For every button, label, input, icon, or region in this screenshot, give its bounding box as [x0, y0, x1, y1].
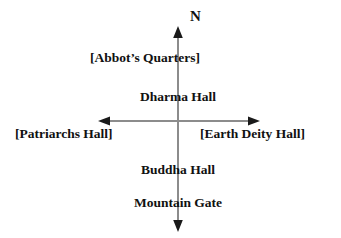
- label-abbots-quarters: [Abbot’s Quarters]: [90, 51, 200, 65]
- north-arrowhead-icon: [173, 26, 183, 38]
- label-buddha-hall: Buddha Hall: [141, 163, 215, 177]
- label-earth-deity-hall: [Earth Deity Hall]: [200, 127, 305, 141]
- south-arrowhead-icon: [173, 220, 183, 232]
- west-arrowhead-icon: [98, 116, 110, 125]
- label-patriarchs-hall: [Patriarchs Hall]: [15, 127, 113, 141]
- label-mountain-gate: Mountain Gate: [134, 196, 222, 210]
- compass-north-label: N: [190, 9, 201, 24]
- east-arrowhead-icon: [248, 116, 260, 125]
- label-dharma-hall: Dharma Hall: [140, 90, 216, 104]
- temple-layout-diagram: N [Abbot’s Quarters] Dharma Hall [Patria…: [0, 0, 341, 238]
